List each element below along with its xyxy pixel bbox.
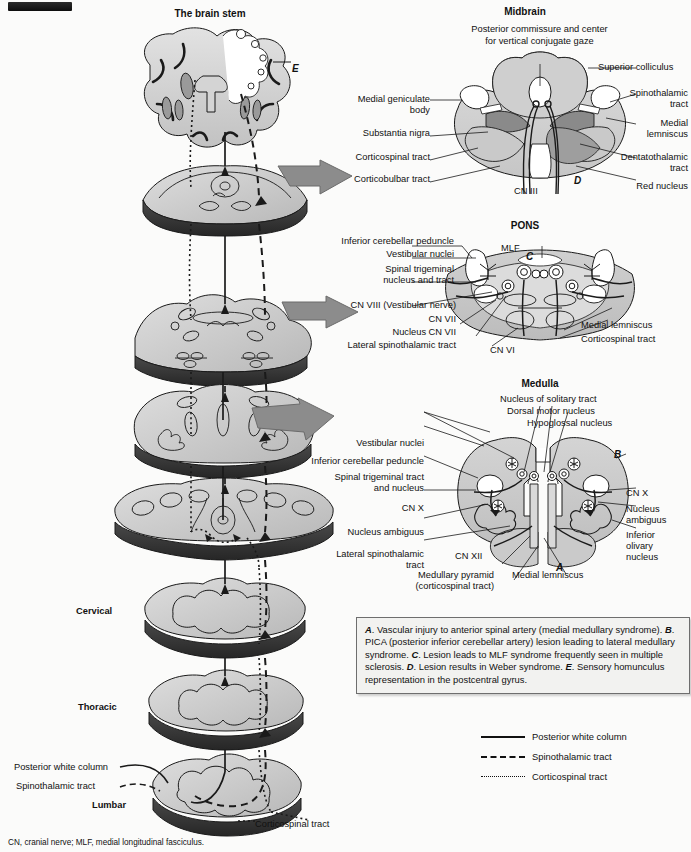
- figure-page: The brain stem: [0, 0, 691, 852]
- medulla-marker-b: B: [614, 449, 621, 460]
- caption-mark-b: B: [665, 624, 672, 635]
- pons-label-lateral-spinothalamic-tract: Lateral spinothalamic tract: [328, 340, 456, 351]
- pons-label-cn-vii: CN VII: [328, 314, 456, 325]
- medulla-label-spinal-trigeminal-tract: Spinal trigeminal tract and nucleus: [296, 472, 424, 494]
- pons-label-medial-lemniscus: Medial lemniscus: [581, 320, 652, 331]
- pons-label-cn-viii: CN VIII (Vestibular nerve): [328, 300, 456, 311]
- pons-label-corticospinal-tract: Corticospinal tract: [581, 334, 655, 345]
- midbrain-title: Midbrain: [470, 6, 580, 17]
- page-corner-bar: [8, 2, 72, 11]
- pons-label-spinal-trigeminal: Spinal trigeminal nucleus and tract: [328, 264, 454, 286]
- midbrain-label-spinothalamic-tract: Spinothalamic tract: [580, 88, 688, 110]
- medulla-label-medullary-pyramid: Medullary pyramid (corticospinal tract): [378, 570, 494, 592]
- pons-title: PONS: [470, 220, 580, 231]
- legend-item-corticospinal-tract: Corticospinal tract: [481, 771, 627, 782]
- medulla-marker-a: A: [556, 562, 563, 573]
- midbrain-label-medial-lemniscus: Medial lemniscus: [580, 118, 688, 140]
- midbrain-label-medial-geniculate-body: Medial geniculate body: [320, 94, 430, 116]
- midbrain-label-corticobulbar-tract: Corticobulbar tract: [320, 174, 430, 185]
- midbrain-label-substantia-nigra: Substantia nigra: [320, 128, 430, 139]
- pons-label-mlf: MLF: [501, 243, 520, 254]
- level-label-cervical: Cervical: [76, 606, 112, 617]
- caption-text-a: . Vascular injury to anterior spinal art…: [372, 624, 665, 635]
- tract-legend: Posterior white column Spinothalamic tra…: [481, 731, 627, 791]
- callout-posterior-white-column: Posterior white column: [14, 762, 108, 773]
- midbrain-label-red-nucleus: Red nucleus: [578, 181, 688, 192]
- medulla-label-cn-xii: CN XII: [455, 551, 482, 562]
- pons-label-inferior-cerebellar-peduncle: Inferior cerebellar peduncle: [328, 236, 454, 247]
- medulla-label-nucleus-ambiguus-left: Nucleus ambiguus: [306, 527, 424, 538]
- legend-item-posterior-white-column: Posterior white column: [481, 731, 627, 742]
- midbrain-label-dentatothalamic-tract: Dentatothalamic tract: [578, 152, 688, 174]
- pons-label-nucleus-cn-vii: Nucleus CN VII: [328, 327, 456, 338]
- level-label-thoracic: Thoracic: [78, 702, 117, 713]
- caption-text-d: . Lesion results in Weber syndrome.: [413, 661, 565, 672]
- medulla-label-inferior-cerebellar-peduncle: Inferior cerebellar peduncle: [296, 456, 424, 467]
- figure-footnote: CN, cranial nerve; MLF, medial longitudi…: [8, 838, 204, 847]
- legend-swatch-solid-line: [481, 736, 525, 738]
- midbrain-label-cn-iii: CN III: [514, 186, 538, 197]
- pons-label-cn-vi: CN VI: [490, 345, 515, 356]
- medulla-label-nucleus-solitary-tract: Nucleus of solitary tract: [500, 394, 597, 405]
- bottom-left-callout-leaders: [120, 755, 280, 835]
- legend-item-spinothalamic-tract: Spinothalamic tract: [481, 751, 627, 762]
- legend-label-corticospinal-tract: Corticospinal tract: [532, 771, 607, 782]
- medulla-label-lateral-spinothalamic-tract: Lateral spinothalamic tract: [306, 549, 424, 571]
- legend-swatch-dashed-line: [481, 756, 525, 758]
- medulla-label-nucleus-ambiguus-right: Nucleus ambiguus: [626, 504, 666, 526]
- pons-label-vestibular-nuclei: Vestibular nuclei: [328, 249, 454, 260]
- midbrain-label-posterior-commissure: Posterior commissure and center for vert…: [452, 24, 627, 47]
- medulla-label-vestibular-nuclei: Vestibular nuclei: [310, 438, 424, 449]
- midbrain-label-superior-colliculus: Superior colliculus: [598, 62, 673, 73]
- legend-label-posterior-white-column: Posterior white column: [532, 731, 627, 742]
- brainstem-marker-e: E: [292, 63, 299, 74]
- medulla-label-cn-x-left: CN X: [336, 503, 424, 514]
- medulla-title: Medulla: [485, 378, 595, 389]
- medulla-label-inferior-olivary-nucleus: Inferior olivary nucleus: [626, 530, 658, 564]
- medulla-label-medial-lemniscus: Medial lemniscus: [512, 570, 583, 581]
- midbrain-marker-d: D: [574, 175, 581, 186]
- legend-label-spinothalamic-tract: Spinothalamic tract: [532, 751, 612, 762]
- legend-swatch-dotted-line: [481, 776, 525, 777]
- caption-mark-a: A: [365, 624, 372, 635]
- medulla-label-cn-x-right: CN X: [626, 488, 648, 499]
- lesion-caption-box: A. Vascular injury to anterior spinal ar…: [356, 617, 690, 694]
- brainstem-title: The brain stem: [140, 8, 280, 19]
- pons-marker-c: C: [526, 251, 533, 262]
- midbrain-label-corticospinal-tract: Corticospinal tract: [320, 152, 430, 163]
- callout-spinothalamic-tract: Spinothalamic tract: [16, 781, 95, 792]
